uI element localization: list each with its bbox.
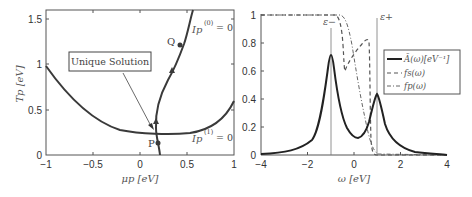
svg-text:Ip: Ip <box>191 24 203 35</box>
left-xtick-0: 0 <box>137 159 143 170</box>
unique-solution-label: Unique Solution <box>71 56 149 67</box>
right-xlabel: ω [eV] <box>338 173 370 184</box>
point-p-label: P <box>148 138 155 149</box>
left-ytick-0.5: 0.5 <box>28 105 42 116</box>
annotation-arrow-line <box>123 73 151 126</box>
left-xtick--0.5: −0.5 <box>83 159 103 170</box>
left-xlabel: μp [eV] <box>121 173 158 184</box>
svg-text:Ip: Ip <box>191 133 203 144</box>
point-q-marker <box>178 43 183 48</box>
eps-plus-label: ε+ <box>380 11 393 22</box>
right-ytick-0.2: 0.2 <box>242 122 256 133</box>
figure: 0 0.5 1 1.5 −1 −0.5 0 0.5 1 μp [eV] Tp [… <box>0 0 472 197</box>
left-ytick-1.5: 1.5 <box>28 14 42 25</box>
right-xtick--2: −2 <box>302 159 314 170</box>
point-q-label: Q <box>167 36 175 47</box>
left-xtick-0.5: 0.5 <box>180 159 194 170</box>
point-p-marker <box>156 141 161 146</box>
svg-text:= 0: = 0 <box>216 132 233 143</box>
right-ytick-0.4: 0.4 <box>242 94 256 105</box>
right-plot: 0 0.2 0.4 0.6 0.8 1 −4 −2 0 2 4 ω [eV] ε… <box>242 10 460 184</box>
legend-a-omega: Ā(ω)[eV⁻¹] <box>403 53 450 64</box>
legend: Ā(ω)[eV⁻¹] fs(ω) fp(ω) <box>384 50 460 94</box>
left-ytick-1: 1 <box>36 59 42 70</box>
svg-text:(1): (1) <box>204 128 214 136</box>
right-ytick-0.6: 0.6 <box>242 66 256 77</box>
svg-text:(0): (0) <box>204 19 214 27</box>
right-xtick-0: 0 <box>351 159 357 170</box>
right-xtick--4: −4 <box>255 159 267 170</box>
triangle-marker <box>153 118 159 124</box>
legend-fp: fp(ω) <box>403 81 426 91</box>
right-xtick-4: 4 <box>444 159 450 170</box>
right-ytick-0.8: 0.8 <box>242 38 256 49</box>
right-xtick-2: 2 <box>398 159 404 170</box>
right-ytick-1: 1 <box>250 10 256 21</box>
left-ylabel: Tp [eV] <box>14 65 25 102</box>
left-xtick--1: −1 <box>40 159 52 170</box>
left-plot: 0 0.5 1 1.5 −1 −0.5 0 0.5 1 μp [eV] Tp [… <box>14 10 237 184</box>
eps-minus-label: ε− <box>323 16 336 27</box>
curve-ip1-label: Ip (1) = 0 <box>191 128 233 144</box>
left-xtick-1: 1 <box>231 159 237 170</box>
curve-ip0-label: Ip (0) = 0 <box>191 19 233 35</box>
legend-fs: fs(ω) <box>403 68 425 78</box>
arrow-head-icon <box>148 123 154 130</box>
curve-ip1-zero <box>46 66 234 134</box>
svg-text:= 0: = 0 <box>216 22 233 33</box>
